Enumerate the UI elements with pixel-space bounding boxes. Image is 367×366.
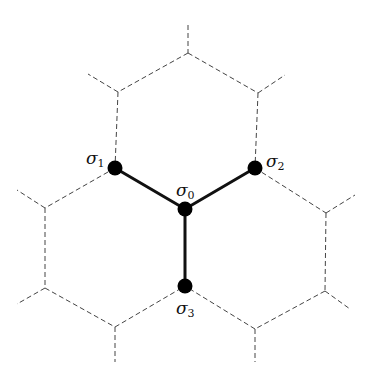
node-sigma0 (178, 202, 193, 217)
honeycomb-lattice-diagram: σ0 σ1 σ2 σ3 (0, 0, 367, 366)
node-sigma3 (178, 279, 193, 294)
node-sigma2 (248, 161, 263, 176)
label-sigma1: σ1 (86, 150, 105, 169)
bond-s0-s2 (185, 168, 255, 209)
label-sigma0: σ0 (176, 182, 195, 201)
label-sigma3: σ3 (176, 300, 195, 319)
node-sigma1 (108, 161, 123, 176)
bond-s0-s1 (115, 168, 185, 209)
label-sigma2: σ2 (266, 153, 285, 172)
